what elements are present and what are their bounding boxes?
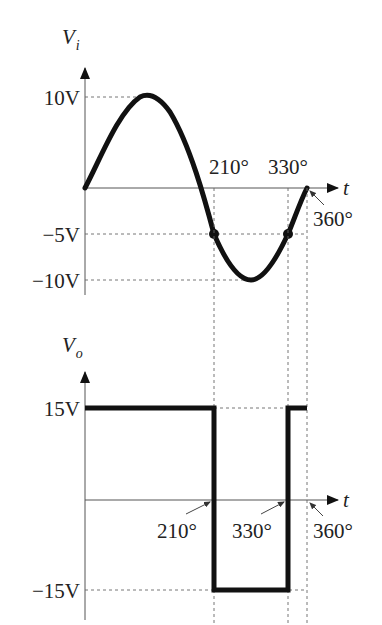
pointer-360-bottom <box>310 503 323 516</box>
angle-210-bottom: 210° <box>157 519 197 543</box>
angle-330-top: 330° <box>268 155 308 179</box>
vo-square-wave <box>85 408 307 590</box>
vi-t-label: t <box>343 176 350 200</box>
angle-330-bottom: 330° <box>232 519 272 543</box>
angle-360-bottom: 360° <box>313 519 353 543</box>
angle-360-top: 360° <box>313 207 353 231</box>
waveform-diagram: Vi t 10V −5V −10V 210° 330° 360° Vo t 15… <box>0 0 382 625</box>
input-plot: Vi t 10V −5V −10V 210° 330° 360° <box>32 25 353 295</box>
pointer-210-bottom <box>186 502 210 514</box>
vo-axis-label: Vo <box>62 333 83 361</box>
tick-neg15v: −15V <box>32 579 80 603</box>
pointer-360-top <box>310 191 324 205</box>
angle-210-top: 210° <box>209 155 249 179</box>
tick-neg10v: −10V <box>32 269 80 293</box>
tick-neg5v: −5V <box>42 223 80 247</box>
tick-10v: 10V <box>44 86 80 110</box>
pointer-330-bottom <box>261 502 284 514</box>
tick-15v: 15V <box>44 397 80 421</box>
vo-t-label: t <box>343 488 350 512</box>
output-plot: Vo t 15V −15V 210° 330° 360° <box>32 333 353 620</box>
vi-axis-label: Vi <box>62 25 80 53</box>
